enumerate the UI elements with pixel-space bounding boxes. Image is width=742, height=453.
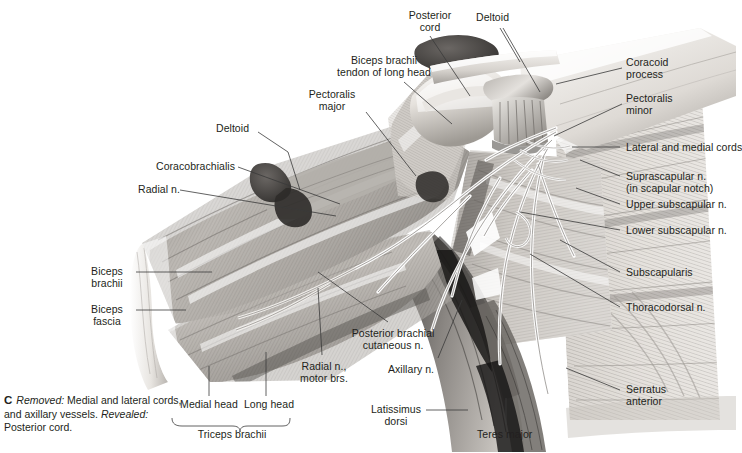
label-biceps-tendon-long-head: Biceps brachii tendon of long head — [320, 54, 448, 78]
label-suprascapular-n: Suprascapular n. (in scapular notch) — [626, 170, 713, 194]
label-axillary-n: Axillary n. — [388, 363, 434, 375]
figure-caption: C Removed: Medial and lateral cords, and… — [4, 394, 184, 435]
label-thoracodorsal-n: Thoracodorsal n. — [626, 301, 706, 313]
label-lateral-and-medial-cords: Lateral and medial cords — [626, 141, 742, 153]
label-radial-n-motor-brs: Radial n., motor brs. — [290, 360, 358, 384]
label-triceps-brachii: Triceps brachii — [188, 428, 276, 440]
label-pectoralis-major: Pectoralis major — [296, 88, 368, 112]
label-posterior-cord: Posterior cord — [392, 9, 468, 33]
label-biceps-brachii: Biceps brachii — [80, 265, 134, 289]
label-subscapularis: Subscapularis — [626, 266, 693, 278]
label-biceps-fascia: Biceps fascia — [80, 303, 134, 327]
label-upper-subscapular-n: Upper subscapular n. — [626, 198, 727, 210]
label-latissimus-dorsi: Latissimus dorsi — [366, 403, 426, 427]
label-coracoid-process: Coracoid process — [626, 56, 668, 80]
caption-removed-label: Removed: — [16, 394, 64, 406]
caption-revealed-label: Revealed: — [101, 408, 148, 420]
label-deltoid-top: Deltoid — [476, 11, 509, 23]
label-radial-n: Radial n. — [138, 183, 180, 195]
label-serratus-anterior: Serratus anterior — [626, 383, 666, 407]
label-coracobrachialis: Coracobrachialis — [156, 160, 235, 172]
label-deltoid-left: Deltoid — [216, 122, 249, 134]
label-posterior-brachial-cutaneous-n: Posterior brachial cutaneous n. — [334, 327, 452, 351]
caption-body: Removed: Medial and lateral cords, and a… — [4, 394, 184, 435]
label-lower-subscapular-n: Lower subscapular n. — [626, 224, 727, 236]
label-pectoralis-minor: Pectoralis minor — [626, 92, 673, 116]
label-long-head: Long head — [238, 398, 300, 410]
caption-revealed-text: Posterior cord. — [4, 421, 72, 433]
plate-letter: C — [4, 394, 12, 408]
label-teres-major: Teres major — [477, 428, 532, 440]
